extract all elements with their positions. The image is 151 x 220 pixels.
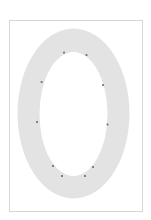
control-point-marker[interactable]: [52, 165, 54, 167]
control-point-marker[interactable]: [63, 52, 65, 54]
control-point-marker[interactable]: [36, 121, 38, 123]
control-point-marker[interactable]: [84, 175, 86, 177]
control-point-marker[interactable]: [102, 84, 104, 86]
control-point-marker[interactable]: [61, 175, 63, 177]
control-point-marker[interactable]: [41, 81, 43, 83]
glyph-preview-canvas: [0, 0, 151, 220]
glyph-figure: [0, 0, 151, 220]
control-point-marker[interactable]: [107, 124, 109, 126]
control-point-marker[interactable]: [92, 166, 94, 168]
control-point-marker[interactable]: [86, 54, 88, 56]
